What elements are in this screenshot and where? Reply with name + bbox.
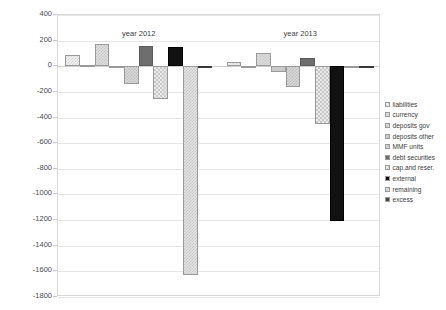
bar-chart: 4002000-200-400-600-800-1000-1200-1400-1… — [0, 0, 446, 310]
bar-external-year-2012 — [168, 47, 183, 66]
bar-liabilities-year-2012 — [65, 55, 80, 67]
bar-deposits-other-year-2013 — [271, 66, 286, 72]
y-tick-label--1600: -1600 — [6, 266, 52, 274]
legend-swatch-icon — [385, 134, 390, 139]
y-tick-label--200: -200 — [6, 87, 52, 95]
gridline--1400 — [58, 246, 379, 247]
legend-label: debt securities — [393, 154, 436, 161]
y-tick-label--400: -400 — [6, 113, 52, 121]
legend-item-debt-securities[interactable]: debt securities — [385, 152, 446, 163]
legend-item-remaining[interactable]: remaining — [385, 184, 446, 195]
legend-label: deposits other — [393, 133, 434, 140]
y-tick-label-200: 200 — [6, 36, 52, 44]
legend-swatch-icon — [385, 197, 390, 202]
bar-cap-and-reser--year-2013 — [315, 66, 330, 124]
y-tick-label--800: -800 — [6, 164, 52, 172]
bar-excess-year-2013 — [359, 66, 374, 68]
legend-item-cap-and-reser-[interactable]: cap.and reser. — [385, 163, 446, 174]
gridline-400 — [58, 15, 379, 16]
bar-deposits-gov-year-2013 — [256, 53, 271, 66]
bar-mmf-units-year-2013 — [286, 66, 301, 87]
legend-swatch-icon — [385, 176, 390, 181]
bar-liabilities-year-2013 — [227, 62, 242, 66]
group-title-year-2012: year 2012 — [65, 29, 212, 38]
legend-item-currency[interactable]: currency — [385, 110, 446, 121]
bar-remaining-year-2012 — [183, 66, 198, 275]
legend-item-deposits-other[interactable]: deposits other — [385, 131, 446, 142]
legend-item-deposits-gov[interactable]: deposits gov — [385, 120, 446, 131]
legend-swatch-icon — [385, 112, 390, 117]
legend-label: remaining — [393, 186, 422, 193]
legend-item-mmf-units[interactable]: MMF units — [385, 141, 446, 152]
gridline-200 — [58, 41, 379, 42]
y-tick-mark--1800 — [53, 296, 57, 297]
legend-label: currency — [393, 111, 418, 118]
bar-deposits-gov-year-2012 — [95, 44, 110, 66]
bar-currency-year-2013 — [241, 66, 256, 68]
bar-remaining-year-2013 — [344, 66, 359, 68]
gridline--1600 — [58, 271, 379, 272]
bar-currency-year-2012 — [80, 65, 95, 67]
legend-item-external[interactable]: external — [385, 173, 446, 184]
y-tick-label--1800: -1800 — [6, 292, 52, 300]
bar-debt-securities-year-2012 — [139, 46, 154, 66]
y-tick-label--1400: -1400 — [6, 241, 52, 249]
group-title-year-2013: year 2013 — [227, 29, 374, 38]
legend-label: liabilities — [393, 101, 418, 108]
legend-label: external — [393, 175, 416, 182]
y-tick-label-400: 400 — [6, 10, 52, 18]
legend-label: MMF units — [393, 143, 424, 150]
y-tick-label-0: 0 — [6, 61, 52, 69]
plot-area: year 2012year 2013 — [57, 14, 380, 296]
legend-item-excess[interactable]: excess — [385, 194, 446, 205]
y-tick-label--600: -600 — [6, 138, 52, 146]
bar-debt-securities-year-2013 — [300, 58, 315, 66]
y-tick-label--1200: -1200 — [6, 215, 52, 223]
legend: liabilitiescurrencydeposits govdeposits … — [385, 99, 446, 205]
bar-deposits-other-year-2012 — [109, 66, 124, 68]
legend-label: deposits gov — [393, 122, 430, 129]
legend-swatch-icon — [385, 123, 390, 128]
legend-swatch-icon — [385, 155, 390, 160]
legend-label: excess — [393, 196, 414, 203]
legend-swatch-icon — [385, 144, 390, 149]
bar-external-year-2013 — [330, 66, 345, 221]
gridline--1800 — [58, 297, 379, 298]
legend-swatch-icon — [385, 187, 390, 192]
legend-swatch-icon — [385, 102, 390, 107]
bar-mmf-units-year-2012 — [124, 66, 139, 83]
legend-item-liabilities[interactable]: liabilities — [385, 99, 446, 110]
legend-swatch-icon — [385, 165, 390, 170]
bar-cap-and-reser--year-2012 — [153, 66, 168, 99]
legend-label: cap.and reser. — [393, 164, 435, 171]
y-tick-label--1000: -1000 — [6, 189, 52, 197]
bar-excess-year-2012 — [198, 66, 213, 68]
